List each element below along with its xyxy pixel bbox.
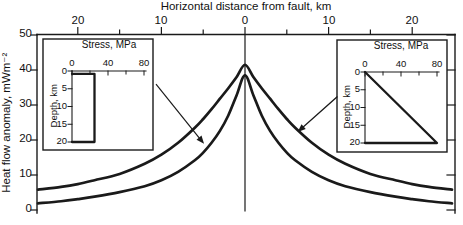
inset-right-title: Stress, MPa — [351, 41, 451, 51]
inset-right-y-axis-title: Depth, km — [342, 77, 352, 137]
inset-right-y-tick-label: 0 — [340, 67, 360, 77]
x-tick-label: 10 — [314, 15, 344, 27]
inset-left-y-axis-title: Depth, km — [49, 76, 59, 136]
y-tick-label: 50 — [12, 28, 32, 40]
x-tick-label: 0 — [230, 15, 260, 27]
y-tick-label: 30 — [12, 98, 32, 110]
inset-left-y-tick-label: 0 — [47, 66, 67, 76]
annotation-arrow-left — [156, 85, 199, 138]
main-chart-svg — [0, 0, 463, 225]
inset-left-title: Stress, MPa — [59, 40, 159, 50]
inset-right-y-tick-label: 20 — [340, 137, 360, 147]
inset-left-y-tick-label: 20 — [47, 136, 67, 146]
inset-right-x-tick-label: 80 — [425, 59, 449, 69]
y-axis-title: Heat flow anomaly, mWm⁻² — [1, 38, 13, 208]
annotation-arrow-right — [304, 97, 337, 127]
y-tick-label: 0 — [12, 203, 32, 215]
inset-right-x-tick-label: 40 — [389, 59, 413, 69]
inset-left-x-tick-label: 40 — [96, 58, 120, 68]
x-tick-label: 20 — [63, 15, 93, 27]
x-tick-label: 10 — [146, 15, 176, 27]
inset-left-box — [43, 39, 153, 150]
x-tick-label: 20 — [397, 15, 427, 27]
heat-flow-anomaly-figure: Horizontal distance from fault, km 20 10… — [0, 0, 463, 225]
y-tick-label: 20 — [12, 133, 32, 145]
y-tick-label: 40 — [12, 63, 32, 75]
inset-left-x-tick-label: 80 — [132, 58, 156, 68]
x-axis-title: Horizontal distance from fault, km — [37, 1, 455, 13]
y-tick-label: 10 — [12, 168, 32, 180]
